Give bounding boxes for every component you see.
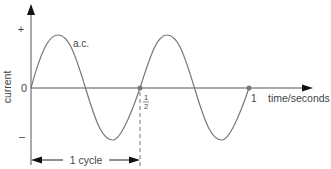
y-tick-plus: + <box>18 23 24 35</box>
y-axis-arrow-icon <box>27 4 35 15</box>
y-tick-minus: – <box>19 130 26 142</box>
one-cycle-annotation: 1 cycle <box>31 154 140 166</box>
x-tick-one: 1 <box>251 93 257 104</box>
one-second-marker <box>247 86 252 91</box>
cycle-left-arrow-icon <box>31 157 42 164</box>
half-second-marker <box>138 86 143 91</box>
ac-waveform-diagram: + 0 – current a.c. 1 2 1 time/seconds 1 … <box>0 0 331 169</box>
x-tick-half-denominator: 2 <box>144 102 148 111</box>
x-axis <box>31 85 313 92</box>
x-tick-half: 1 2 <box>143 93 149 111</box>
y-axis-label: current <box>1 71 13 104</box>
x-axis-label: time/seconds <box>268 92 330 104</box>
y-tick-zero: 0 <box>21 82 27 94</box>
x-axis-arrow-icon <box>302 85 313 92</box>
y-axis <box>27 4 35 165</box>
x-tick-half-numerator: 1 <box>144 93 148 102</box>
one-cycle-label: 1 cycle <box>70 154 103 166</box>
cycle-right-arrow-icon <box>129 157 140 164</box>
curve-label: a.c. <box>73 38 89 49</box>
